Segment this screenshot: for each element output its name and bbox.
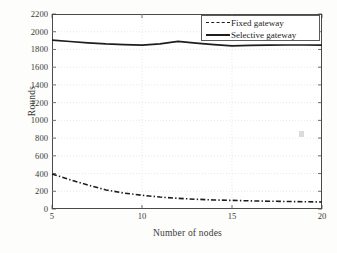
legend-item-fixed-gateway: Fixed gateway [205,17,317,29]
x-tick-label: 15 [228,211,237,221]
legend-label: Fixed gateway [231,18,284,29]
series-line-selective-gateway [52,40,322,46]
x-tick-label: 20 [318,211,327,221]
legend-item-selective-gateway: Selective gateway [205,29,317,41]
x-tick-label: 5 [50,211,54,221]
solid-line-sample [205,30,231,40]
dash-dot-line-sample [205,18,231,28]
series-line-fixed-gateway [52,174,322,202]
legend: Fixed gateway Selective gateway [201,15,320,41]
figure: 2200 2000 1800 1600 1400 1200 1000 800 6… [0,0,337,253]
scan-artifact [299,131,304,137]
x-axis-title: Number of nodes [52,228,323,238]
x-tick-label: 10 [138,211,147,221]
legend-label: Selective gateway [231,30,296,41]
